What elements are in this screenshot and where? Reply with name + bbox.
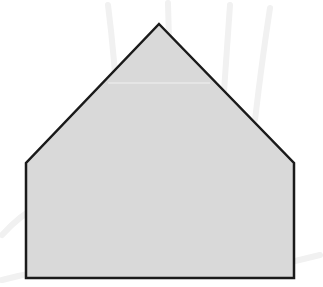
- pentagon-shape: [26, 24, 294, 278]
- diagram-canvas: [0, 0, 323, 287]
